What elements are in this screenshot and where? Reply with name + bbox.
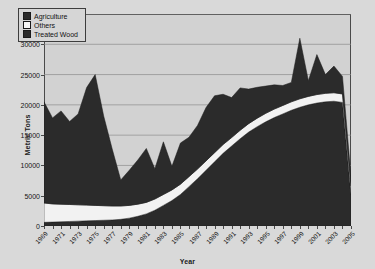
x-axis-tick-mark — [334, 226, 335, 229]
x-axis-tick-label: 1991 — [221, 230, 236, 245]
x-axis-tick-mark — [112, 226, 113, 229]
x-axis-tick-label: 1969 — [34, 230, 49, 245]
y-axis-tick-mark — [41, 75, 44, 76]
x-axis-tick-mark — [87, 226, 88, 229]
x-axis-tick-mark — [215, 226, 216, 229]
x-axis-tick-mark — [266, 226, 267, 229]
y-axis-tick-mark — [41, 165, 44, 166]
x-axis-tick-mark — [317, 226, 318, 229]
x-axis-tick-mark — [163, 226, 164, 229]
x-axis-tick-mark — [189, 226, 190, 229]
x-axis-tick-mark — [223, 226, 224, 229]
x-axis-tick-mark — [351, 226, 352, 229]
x-axis-tick-mark — [146, 226, 147, 229]
x-axis-tick-label: 1979 — [119, 230, 134, 245]
legend-item: Others — [23, 21, 78, 29]
legend-item: Agriculture — [23, 12, 78, 20]
x-axis-tick-mark — [129, 226, 130, 229]
x-axis-tick-label: 1973 — [68, 230, 83, 245]
x-axis-tick-label: 1993 — [238, 230, 253, 245]
plot-area: 05000100001500020000250003000035000 1969… — [44, 14, 351, 226]
y-axis-tick-mark — [41, 105, 44, 106]
y-axis-tick-label: 0 — [36, 223, 40, 230]
x-axis-tick-mark — [180, 226, 181, 229]
x-axis-tick-label: 1983 — [153, 230, 168, 245]
x-axis-tick-label: 2005 — [341, 230, 356, 245]
y-axis-tick-mark — [41, 44, 44, 45]
x-axis-tick-label: 1975 — [85, 230, 100, 245]
y-axis-tick-mark — [41, 135, 44, 136]
y-axis-tick-label: 20000 — [21, 101, 40, 108]
x-axis-tick-label: 1977 — [102, 230, 117, 245]
x-axis-tick-mark — [249, 226, 250, 229]
x-axis-tick-label: 2001 — [307, 230, 322, 245]
legend-item-label: Treated Wood — [34, 31, 78, 38]
x-axis-tick-mark — [172, 226, 173, 229]
x-axis-tick-mark — [300, 226, 301, 229]
x-axis-tick-mark — [138, 226, 139, 229]
x-axis-tick-mark — [121, 226, 122, 229]
x-axis-tick-mark — [308, 226, 309, 229]
x-axis-tick-mark — [325, 226, 326, 229]
filled-square-icon — [23, 30, 31, 38]
x-axis-title: Year — [0, 258, 375, 265]
x-axis-tick-label: 2003 — [324, 230, 339, 245]
x-axis-tick-mark — [44, 226, 45, 229]
area-chart: Metric Tons Year 05000100001500020000250… — [0, 0, 375, 269]
x-axis-tick-mark — [155, 226, 156, 229]
x-axis-tick-mark — [206, 226, 207, 229]
x-axis-tick-mark — [283, 226, 284, 229]
x-axis-tick-label: 1999 — [290, 230, 305, 245]
stacked-area-svg — [44, 14, 351, 226]
x-axis-tick-mark — [70, 226, 71, 229]
x-axis-tick-mark — [342, 226, 343, 229]
x-axis-tick-mark — [198, 226, 199, 229]
x-axis-tick-mark — [78, 226, 79, 229]
hollow-square-icon — [23, 21, 31, 29]
x-axis-tick-mark — [291, 226, 292, 229]
chart-legend: AgricultureOthersTreated Wood — [18, 8, 86, 42]
y-axis-tick-mark — [41, 196, 44, 197]
x-axis-tick-mark — [61, 226, 62, 229]
legend-item: Treated Wood — [23, 30, 78, 38]
x-axis-tick-mark — [104, 226, 105, 229]
x-axis-tick-label: 1981 — [136, 230, 151, 245]
x-axis-tick-mark — [240, 226, 241, 229]
y-axis-tick-label: 5000 — [24, 192, 40, 199]
x-axis-tick-mark — [274, 226, 275, 229]
y-axis-tick-label: 10000 — [21, 162, 40, 169]
legend-item-label: Others — [34, 22, 55, 29]
legend-item-label: Agriculture — [34, 13, 67, 20]
x-axis-tick-mark — [95, 226, 96, 229]
x-axis-tick-label: 1987 — [187, 230, 202, 245]
x-axis-tick-label: 1989 — [204, 230, 219, 245]
x-axis-tick-mark — [257, 226, 258, 229]
y-axis-tick-label: 15000 — [21, 132, 40, 139]
x-axis-tick-mark — [232, 226, 233, 229]
x-axis-tick-label: 1971 — [51, 230, 66, 245]
x-axis-tick-label: 1997 — [273, 230, 288, 245]
y-axis-tick-label: 25000 — [21, 71, 40, 78]
x-axis-tick-label: 1985 — [170, 230, 185, 245]
x-axis-tick-mark — [53, 226, 54, 229]
filled-square-icon — [23, 12, 31, 20]
x-axis-tick-label: 1995 — [255, 230, 270, 245]
